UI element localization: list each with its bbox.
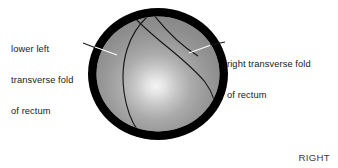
label-left-line-3: of rectum xyxy=(11,106,73,116)
right-transverse-fold-label: right transverse fold of rectum xyxy=(227,38,311,121)
anatomy-figure: lower left transverse fold of rectum rig… xyxy=(0,0,338,168)
label-left-line-1: lower left xyxy=(11,44,73,54)
lower-left-transverse-fold-label: lower left transverse fold of rectum xyxy=(11,23,73,137)
orientation-label-right: RIGHT xyxy=(298,152,330,163)
label-left-line-2: transverse fold xyxy=(11,75,73,85)
label-right-line-2: of rectum xyxy=(227,90,311,100)
label-right-line-1: right transverse fold xyxy=(227,59,311,69)
